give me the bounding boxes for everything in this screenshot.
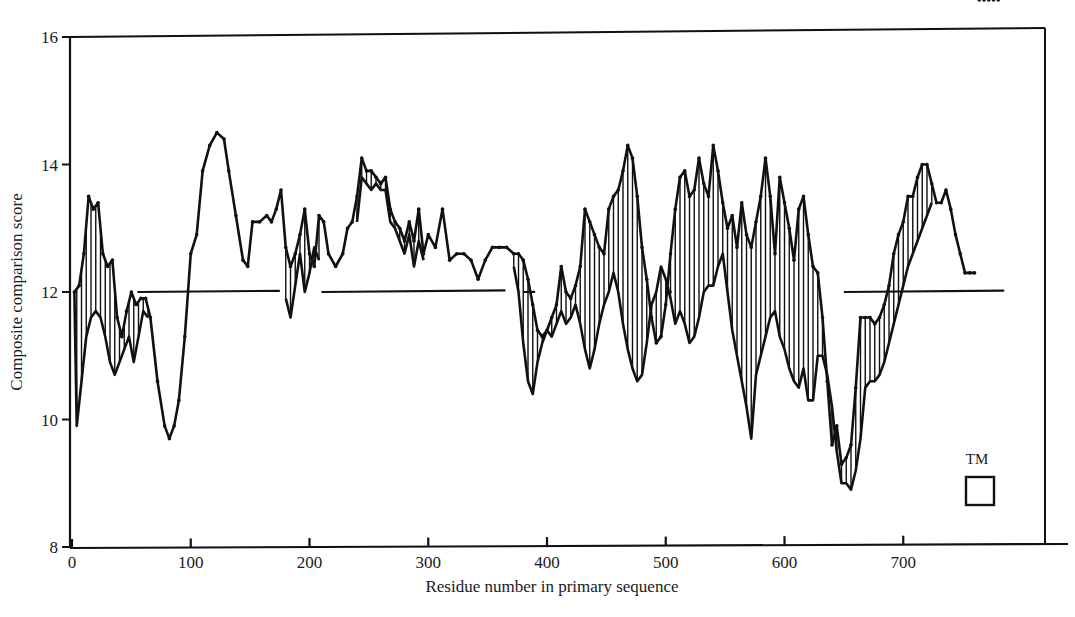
x-axis-title: Residue number in primary sequence (425, 577, 678, 596)
data-point (334, 265, 338, 269)
data-point (149, 316, 153, 320)
data-point (607, 207, 611, 211)
data-point (897, 233, 901, 237)
data-point (412, 239, 416, 243)
data-point (341, 252, 345, 256)
data-point (783, 201, 787, 205)
top-border (70, 28, 1045, 37)
data-point (312, 265, 316, 269)
data-point (379, 182, 383, 186)
data-point (816, 271, 820, 275)
data-point (374, 175, 378, 179)
data-point (616, 188, 620, 192)
data-point (163, 424, 167, 428)
data-point (982, 0, 986, 2)
data-point (631, 156, 635, 160)
data-point (82, 252, 86, 256)
data-point (583, 207, 587, 211)
data-point (426, 233, 430, 237)
data-point (578, 265, 582, 269)
data-point (350, 220, 354, 224)
data-point (954, 233, 958, 237)
y-tick-label: 8 (50, 538, 59, 557)
data-point (172, 424, 176, 428)
data-point (968, 271, 972, 275)
data-point (270, 220, 274, 224)
data-point (512, 252, 516, 256)
data-point (996, 0, 1000, 2)
data-point (555, 303, 559, 307)
data-point (317, 214, 321, 218)
data-point (265, 214, 269, 218)
data-point (916, 175, 920, 179)
data-point (702, 182, 706, 186)
data-point (540, 335, 544, 339)
data-point (958, 252, 962, 256)
data-point (635, 195, 639, 199)
data-point (289, 265, 293, 269)
data-point (859, 316, 863, 320)
data-point (360, 156, 364, 160)
data-point (517, 252, 521, 256)
data-point (92, 207, 96, 211)
data-point (787, 226, 791, 230)
data-point (569, 297, 573, 301)
data-point (735, 246, 739, 250)
data-point (612, 195, 616, 199)
data-point (545, 328, 549, 332)
data-point (455, 252, 459, 256)
data-point (322, 220, 326, 224)
data-point (195, 233, 199, 237)
data-point (201, 169, 205, 173)
tm-square-icon (966, 477, 994, 505)
data-point (574, 284, 578, 288)
data-point (683, 169, 687, 173)
data-point (222, 137, 226, 141)
x-tick-label: 600 (772, 553, 798, 572)
data-point (863, 316, 867, 320)
x-axis (70, 544, 1068, 548)
data-point (868, 316, 872, 320)
data-point (593, 233, 597, 237)
lower-curve-line (74, 292, 148, 426)
data-point (745, 233, 749, 237)
data-point (241, 258, 245, 262)
data-point (125, 309, 129, 313)
data-point (177, 399, 181, 403)
data-point (830, 443, 834, 447)
data-point (441, 207, 445, 211)
data-point (773, 252, 777, 256)
data-point (355, 195, 359, 199)
data-point (678, 175, 682, 179)
data-point (925, 163, 929, 167)
data-point (183, 335, 187, 339)
data-point (949, 207, 953, 211)
data-point (234, 214, 238, 218)
data-point (768, 195, 772, 199)
data-point (293, 252, 297, 256)
y-tick-label: 14 (41, 156, 59, 175)
data-point (393, 220, 397, 224)
data-point (721, 201, 725, 205)
data-point (144, 297, 148, 301)
data-point (906, 195, 910, 199)
data-point (626, 144, 630, 148)
data-point (251, 220, 255, 224)
data-point (759, 195, 763, 199)
data-point (536, 328, 540, 332)
data-point (920, 163, 924, 167)
data-point (987, 0, 991, 2)
data-point (77, 284, 81, 288)
x-tick-label: 300 (416, 553, 442, 572)
data-point (878, 316, 882, 320)
y-axis-title: Composite comparison score (7, 193, 26, 390)
data-point (111, 258, 115, 262)
x-tick-label: 100 (178, 553, 204, 572)
data-point (825, 379, 829, 383)
data-point (130, 290, 134, 294)
data-point (697, 156, 701, 160)
x-tick-label: 500 (653, 553, 679, 572)
data-point (835, 424, 839, 428)
x-tick-label: 400 (534, 553, 560, 572)
data-point (559, 265, 563, 269)
